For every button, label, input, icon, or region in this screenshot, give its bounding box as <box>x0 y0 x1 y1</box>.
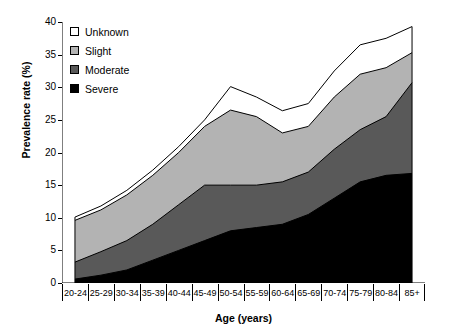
x-tick-label: 75-79 <box>347 284 373 301</box>
legend-swatch-unknown <box>70 27 79 36</box>
legend-swatch-moderate <box>70 65 79 74</box>
legend-swatch-slight <box>70 46 79 55</box>
x-tick-label: 70-74 <box>321 284 347 301</box>
legend-label-slight: Slight <box>85 45 111 57</box>
legend: Unknown Slight Moderate Severe <box>70 22 129 98</box>
y-tick-label: 10 <box>30 213 56 223</box>
x-axis-title: Age (years) <box>62 312 425 324</box>
x-tick-label: 25-29 <box>88 284 114 301</box>
legend-swatch-severe <box>70 84 79 93</box>
x-tick-label: 60-64 <box>269 284 295 301</box>
x-tick-label: 35-39 <box>140 284 166 301</box>
legend-label-severe: Severe <box>85 83 118 95</box>
legend-item: Slight <box>70 41 129 60</box>
y-tick-label: 15 <box>30 180 56 190</box>
y-tick-label: 40 <box>30 17 56 27</box>
x-tick-label: 40-44 <box>166 284 192 301</box>
x-tick-label: 85+ <box>399 284 425 301</box>
y-tick-label: 30 <box>30 82 56 92</box>
y-tick-label: 35 <box>30 50 56 60</box>
x-tick-label: 50-54 <box>218 284 244 301</box>
y-tick-label: 5 <box>30 245 56 255</box>
x-tick-label: 20-24 <box>62 284 88 301</box>
x-tick-label: 55-59 <box>244 284 270 301</box>
y-tick-label: 20 <box>30 148 56 158</box>
y-axis-title: Prevalence rate (%) <box>20 40 32 180</box>
legend-label-unknown: Unknown <box>85 26 129 38</box>
x-tick-label: 65-69 <box>295 284 321 301</box>
legend-item: Severe <box>70 79 129 98</box>
y-tick-label: 25 <box>30 115 56 125</box>
stacked-area-chart: Prevalence rate (%) Age (years) 05101520… <box>0 0 464 333</box>
legend-item: Unknown <box>70 22 129 41</box>
y-tick-label: 0 <box>30 278 56 288</box>
x-tick-label: 45-49 <box>192 284 218 301</box>
x-tick-label: 80-84 <box>373 284 399 301</box>
legend-label-moderate: Moderate <box>85 64 129 76</box>
legend-item: Moderate <box>70 60 129 79</box>
x-tick-label: 30-34 <box>114 284 140 301</box>
